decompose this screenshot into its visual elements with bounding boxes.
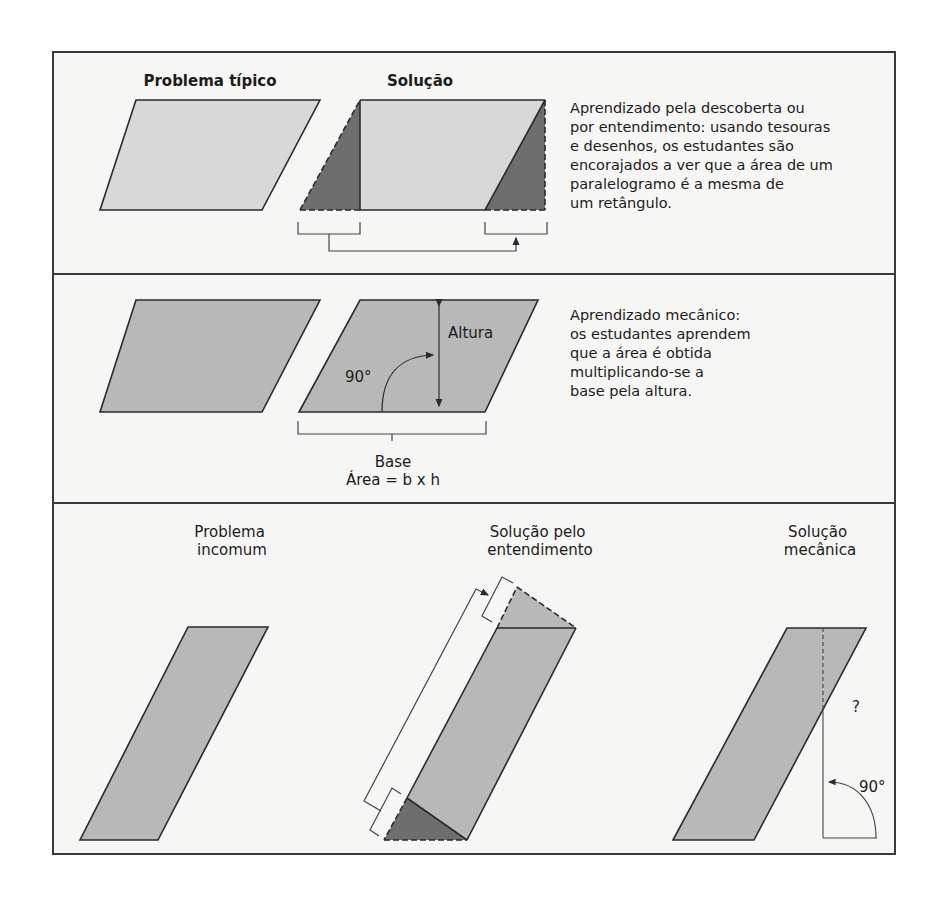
solution-title: Solução xyxy=(387,72,453,90)
height-label: Altura xyxy=(448,324,493,342)
unusual-problem-title: Problema incomum xyxy=(194,523,269,559)
understanding-solution-title: Solução pelo entendimento xyxy=(487,523,592,559)
angle-label: 90° xyxy=(345,368,372,386)
typical-problem-title: Problema típico xyxy=(143,72,276,90)
figure-parallelogram-area: Problema típico Solução Aprendizado pela… xyxy=(0,0,940,903)
base-label: Base xyxy=(375,453,412,471)
question-mark: ? xyxy=(852,698,860,716)
mechanical-solution-title: Solução mecânica xyxy=(784,523,856,559)
area-formula: Área = b x h xyxy=(346,470,440,489)
angle-label-mechanical: 90° xyxy=(859,778,886,796)
